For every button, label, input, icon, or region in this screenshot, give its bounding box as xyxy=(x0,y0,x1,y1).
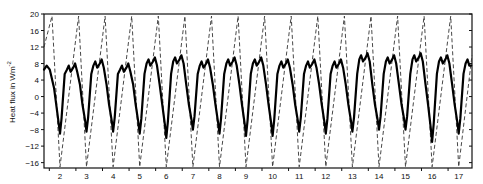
x-tick-label: 3 xyxy=(84,172,89,181)
x-tick-label: 11 xyxy=(295,172,304,181)
x-tick-label: 7 xyxy=(191,172,196,181)
x-tick-label: 6 xyxy=(164,172,169,181)
y-tick-label: −8 xyxy=(30,126,40,135)
axes xyxy=(41,14,472,171)
y-tick-label: 16 xyxy=(30,27,39,36)
y-tick-label: −12 xyxy=(25,142,39,151)
x-tick-label: 10 xyxy=(268,172,277,181)
labels-layer: 201612840−4−8−12−16234567891011121314151… xyxy=(25,10,463,181)
heat-flux-chart: 201612840−4−8−12−16234567891011121314151… xyxy=(0,0,483,184)
y-tick-label: −4 xyxy=(30,109,40,118)
x-tick-label: 12 xyxy=(321,172,330,181)
x-tick-label: 8 xyxy=(217,172,222,181)
x-tick-label: 5 xyxy=(137,172,142,181)
y-tick-label: 8 xyxy=(35,60,40,69)
x-tick-label: 17 xyxy=(454,172,463,181)
x-tick-label: 15 xyxy=(401,172,410,181)
y-tick-label: 0 xyxy=(35,93,40,102)
y-tick-label: 12 xyxy=(30,43,39,52)
series-layer xyxy=(44,16,472,167)
x-tick-label: 2 xyxy=(58,172,63,181)
x-tick-label: 14 xyxy=(375,172,384,181)
y-tick-label: 20 xyxy=(30,10,39,19)
x-tick-label: 16 xyxy=(428,172,437,181)
x-tick-label: 9 xyxy=(244,172,249,181)
x-tick-label: 4 xyxy=(111,172,116,181)
x-tick-label: 13 xyxy=(348,172,357,181)
series-observed-line xyxy=(44,53,471,142)
y-tick-label: −16 xyxy=(25,159,39,168)
y-axis-label: Heat flux in Wm-2 xyxy=(6,60,17,122)
y-tick-label: 4 xyxy=(35,76,40,85)
